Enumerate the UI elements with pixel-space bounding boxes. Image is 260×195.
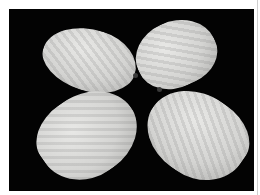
mango-bottom-right — [131, 72, 254, 191]
mango-stem — [157, 87, 162, 92]
mango-top-right — [125, 9, 227, 101]
photo — [9, 9, 254, 191]
mango-stem — [133, 73, 138, 78]
page-edge-divider — [257, 0, 258, 195]
